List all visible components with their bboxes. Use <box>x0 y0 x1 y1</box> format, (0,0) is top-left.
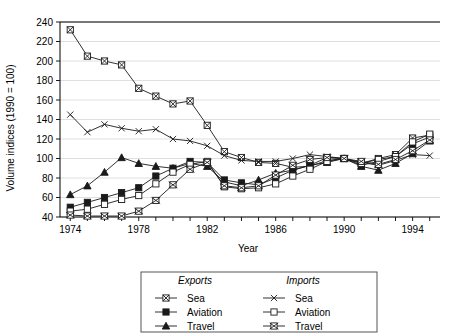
data-point-marker <box>152 197 161 203</box>
legend-item-label: Sea <box>187 293 205 304</box>
data-point-marker <box>101 194 107 200</box>
data-point-marker <box>271 172 280 178</box>
data-point-marker <box>170 169 176 175</box>
data-point-marker <box>83 213 92 219</box>
data-point-marker <box>186 166 195 172</box>
data-point-marker <box>67 27 73 33</box>
chart-legend: ExportsSeaAviationTravelImportsSeaAviati… <box>141 272 377 332</box>
data-point-marker <box>136 85 142 91</box>
legend-item-label: Sea <box>295 293 313 304</box>
data-point-marker <box>187 98 193 104</box>
legend-item-label: Travel <box>187 321 214 332</box>
data-point-marker <box>136 185 142 191</box>
data-point-marker <box>408 148 417 154</box>
data-point-marker <box>203 159 212 165</box>
data-point-marker <box>170 101 176 107</box>
legend-group-title: Exports <box>178 275 212 286</box>
data-point-marker <box>391 156 400 162</box>
data-point-marker <box>204 122 210 128</box>
y-tick-label: 220 <box>36 36 53 47</box>
data-point-marker <box>237 185 246 191</box>
x-axis-title: Year <box>238 243 259 254</box>
data-point-marker <box>290 173 296 179</box>
legend-item-label: Aviation <box>295 307 330 318</box>
x-tick-label: 1990 <box>333 224 356 235</box>
data-point-marker <box>374 161 383 167</box>
data-point-marker <box>66 212 75 218</box>
y-tick-label: 180 <box>36 75 53 86</box>
data-point-marker <box>169 182 178 188</box>
y-tick-label: 200 <box>36 56 53 67</box>
data-point-marker <box>271 309 277 315</box>
x-tick-label: 1978 <box>128 224 151 235</box>
data-point-marker <box>84 199 90 205</box>
x-tick-label: 1974 <box>59 224 82 235</box>
data-point-marker <box>425 137 434 143</box>
y-tick-label: 100 <box>36 153 53 164</box>
data-point-marker <box>153 93 159 99</box>
data-point-marker <box>220 183 229 189</box>
data-point-marker <box>323 154 332 160</box>
y-axis-title: Volume indices (1990 = 100) <box>5 64 16 191</box>
data-point-marker <box>163 295 169 301</box>
data-point-marker <box>136 192 142 198</box>
data-point-marker <box>100 213 109 219</box>
y-tick-label: 40 <box>42 212 54 223</box>
data-point-marker <box>288 162 297 168</box>
x-tick-label: 1982 <box>196 224 219 235</box>
legend-item-label: Travel <box>295 321 322 332</box>
data-point-marker <box>119 62 125 68</box>
volume-indices-line-chart: 406080100120140160180200220240 197419781… <box>0 0 459 336</box>
data-point-marker <box>340 155 349 161</box>
y-tick-label: 140 <box>36 114 53 125</box>
y-tick-label: 80 <box>42 173 54 184</box>
data-point-marker <box>306 156 315 162</box>
data-point-marker <box>307 166 313 172</box>
data-point-marker <box>84 206 90 212</box>
data-point-marker <box>119 196 125 202</box>
y-tick-label: 60 <box>42 192 54 203</box>
x-tick-label: 1986 <box>265 224 288 235</box>
data-point-marker <box>255 159 261 165</box>
y-tick-label: 120 <box>36 134 53 145</box>
legend-item-label: Aviation <box>187 307 222 318</box>
data-point-marker <box>117 213 126 219</box>
y-tick-label: 160 <box>36 95 53 106</box>
data-point-marker <box>153 173 159 179</box>
data-point-marker <box>270 323 279 329</box>
data-point-marker <box>101 58 107 64</box>
data-point-marker <box>101 201 107 207</box>
data-point-marker <box>357 158 366 164</box>
data-point-marker <box>163 309 169 315</box>
data-point-marker <box>254 183 263 189</box>
data-point-marker <box>273 181 279 187</box>
legend-border <box>141 272 377 332</box>
data-point-marker <box>84 53 90 59</box>
x-tick-label: 1994 <box>401 224 424 235</box>
legend-group-title: Imports <box>286 275 319 286</box>
data-point-marker <box>153 181 159 187</box>
data-point-marker <box>134 208 143 214</box>
data-point-marker <box>119 190 125 196</box>
data-point-marker <box>427 131 433 137</box>
data-point-marker <box>410 139 416 145</box>
y-tick-label: 240 <box>36 17 53 28</box>
